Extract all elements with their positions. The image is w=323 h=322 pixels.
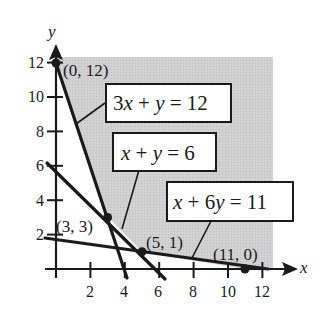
y-axis-label: y bbox=[46, 22, 56, 41]
graph: 2 4 6 8 10 12 2 4 6 8 10 12 x y (0, 12) … bbox=[0, 0, 323, 322]
vertex-0-12 bbox=[52, 59, 61, 68]
svg-text:12: 12 bbox=[254, 283, 270, 300]
svg-text:10: 10 bbox=[28, 88, 44, 105]
vertex-label-3-3: (3, 3) bbox=[56, 217, 93, 236]
svg-text:x + 6y = 11: x + 6y = 11 bbox=[172, 190, 267, 214]
svg-text:4: 4 bbox=[120, 283, 128, 300]
vertex-11-0 bbox=[241, 265, 250, 274]
x-axis-label: x bbox=[299, 258, 308, 277]
svg-text:4: 4 bbox=[36, 192, 44, 209]
label-eq-x-plus-6y-11: x + 6y = 11 bbox=[167, 182, 293, 221]
svg-text:6: 6 bbox=[154, 283, 162, 300]
svg-text:10: 10 bbox=[220, 283, 236, 300]
vertex-label-0-12: (0, 12) bbox=[63, 61, 108, 80]
vertex-label-5-1: (5, 1) bbox=[146, 233, 183, 252]
svg-text:8: 8 bbox=[189, 283, 197, 300]
svg-text:3x + y = 12: 3x + y = 12 bbox=[113, 91, 208, 115]
svg-text:8: 8 bbox=[36, 123, 44, 140]
svg-text:12: 12 bbox=[28, 54, 44, 71]
vertex-label-11-0: (11, 0) bbox=[213, 245, 258, 264]
y-tick-labels: 2 4 6 8 10 12 bbox=[28, 54, 44, 243]
svg-text:2: 2 bbox=[86, 283, 94, 300]
x-tick-labels: 2 4 6 8 10 12 bbox=[86, 283, 270, 300]
svg-text:2: 2 bbox=[36, 226, 44, 243]
label-eq-x-plus-y-6: x + y = 6 bbox=[113, 133, 216, 171]
svg-text:x + y = 6: x + y = 6 bbox=[120, 141, 195, 165]
vertex-3-3 bbox=[103, 213, 112, 222]
label-eq-3x-plus-y-12: 3x + y = 12 bbox=[106, 84, 231, 122]
svg-text:6: 6 bbox=[36, 157, 44, 174]
